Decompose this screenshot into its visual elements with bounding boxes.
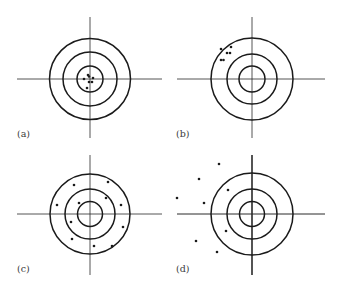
- shot-dot: [203, 202, 206, 205]
- shot-dot: [122, 226, 125, 229]
- shot-dot: [93, 245, 96, 248]
- shot-dot: [226, 52, 229, 55]
- shot-dot: [218, 163, 221, 166]
- shot-dot: [83, 78, 86, 81]
- shot-dot: [176, 197, 179, 200]
- shot-dot: [227, 189, 230, 192]
- shot-dot: [105, 197, 108, 200]
- shot-dot: [107, 181, 110, 184]
- panel-label-b: (b): [176, 128, 190, 139]
- shot-dot: [220, 48, 223, 51]
- shot-dot: [73, 184, 76, 187]
- shot-dot: [86, 87, 89, 90]
- shot-dot: [120, 204, 123, 207]
- shot-dot: [56, 204, 59, 207]
- shot-dot: [216, 251, 219, 254]
- shot-dot: [198, 178, 201, 181]
- shot-dot: [230, 46, 233, 49]
- shot-dot: [220, 59, 223, 62]
- panel-label-a: (a): [17, 128, 30, 139]
- shot-dot: [70, 221, 73, 224]
- panel-label-d: (d): [176, 263, 190, 274]
- shot-dot: [91, 81, 94, 84]
- shot-dot: [229, 52, 232, 55]
- target-diagram: (a) (b) (c) (d): [0, 0, 340, 289]
- shot-dot: [225, 230, 228, 233]
- panel-label-c: (c): [17, 263, 30, 274]
- shot-dot: [88, 81, 91, 84]
- shot-dot: [71, 238, 74, 241]
- shot-dot: [111, 245, 114, 248]
- shot-dot: [88, 75, 91, 78]
- target-panel-b: [177, 17, 325, 138]
- shot-dot: [222, 59, 225, 62]
- shot-dot: [195, 240, 198, 243]
- target-panel-d: [176, 155, 325, 275]
- shot-dot: [92, 77, 95, 80]
- target-panel-a: [17, 17, 162, 138]
- target-panel-c: [17, 155, 162, 275]
- shot-dot: [78, 202, 81, 205]
